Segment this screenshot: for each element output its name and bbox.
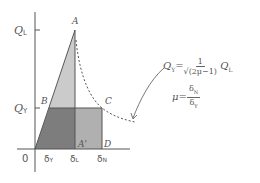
qv-label: QY — [14, 102, 28, 115]
ql-label: QL — [14, 24, 27, 37]
origin-label: 0 — [22, 153, 28, 164]
point-c-label: C — [105, 96, 112, 106]
pointer-arrow — [133, 68, 164, 118]
mu-denominator: δY — [189, 98, 197, 111]
energy-diagram: QL QY 0 δY δL δN A B C D A' — [0, 0, 260, 183]
dn-label: δN — [97, 154, 107, 164]
qv-numerator: 1 — [196, 57, 205, 67]
point-b-label: B — [40, 96, 48, 106]
point-a-label: A — [71, 16, 79, 26]
equation-mu: μ=δNδY — [172, 84, 200, 110]
dark-region — [35, 108, 75, 149]
point-a-prime-label: A' — [77, 139, 87, 149]
dv-label: δY — [44, 154, 54, 164]
mu-numerator: δN — [187, 84, 200, 98]
point-d-label: D — [103, 139, 111, 149]
equation-qv: QY=1√(2μ−1) QL — [163, 57, 232, 76]
qv-denominator: √(2μ−1) — [184, 67, 217, 76]
dl-label: δL — [70, 154, 80, 164]
